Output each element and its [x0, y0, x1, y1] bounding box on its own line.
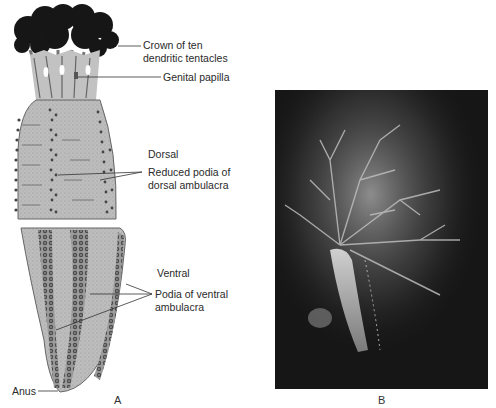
label-genital-papilla: Genital papilla — [163, 71, 230, 83]
label-dorsal-podia-line1: Reduced podia of — [148, 166, 230, 178]
panel-b-letter: B — [378, 394, 385, 406]
label-dorsal-podia-line2: dorsal ambulacra — [148, 179, 229, 191]
panel-a-letter: A — [114, 394, 121, 406]
label-anus: Anus — [12, 385, 36, 397]
label-ventral: Ventral — [157, 267, 190, 279]
label-crown-line1: Crown of ten — [143, 39, 203, 51]
label-crown-line2: dendritic tentacles — [143, 52, 228, 64]
sea-cucumber-figure: Crown of ten dendritic tentacles Genital… — [0, 0, 496, 408]
panel-b-photograph — [0, 0, 496, 408]
label-ventral-podia-line1: Podia of ventral — [155, 288, 228, 300]
label-ventral-podia-line2: ambulacra — [155, 301, 204, 313]
label-dorsal: Dorsal — [148, 148, 178, 160]
